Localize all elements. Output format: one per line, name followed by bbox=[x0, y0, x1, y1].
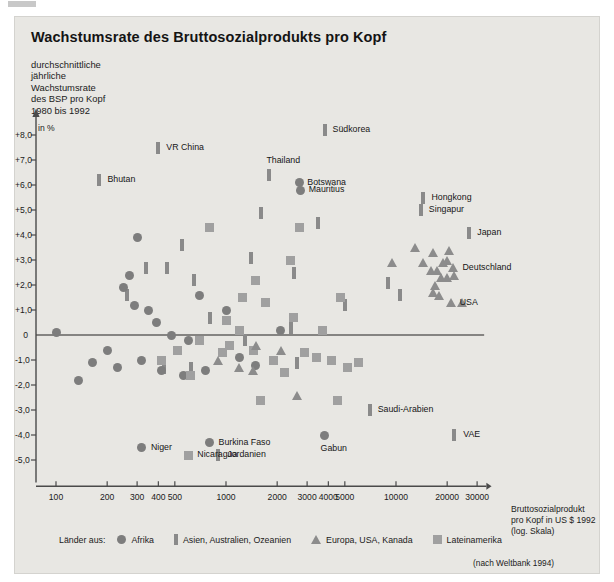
data-point-bar bbox=[267, 169, 271, 181]
point-label: Hongkong bbox=[431, 192, 471, 202]
point-label: Saudi-Arabien bbox=[378, 404, 434, 414]
data-point-triangle bbox=[446, 298, 456, 307]
data-point-circle bbox=[152, 318, 161, 327]
y-tick-label: +8,0 bbox=[15, 130, 28, 140]
legend-item-lateinamerika[interactable]: Lateinamerika bbox=[433, 535, 502, 545]
data-point-triangle bbox=[292, 391, 302, 400]
data-point-triangle bbox=[251, 341, 261, 350]
point-label: Deutschland bbox=[463, 262, 512, 272]
x-tick-label: 500 bbox=[157, 492, 193, 502]
data-point-square bbox=[280, 368, 289, 377]
point-label: Burkina Faso bbox=[219, 437, 271, 447]
y-tick-label: +4,0 bbox=[15, 230, 28, 240]
data-point-circle bbox=[130, 301, 139, 310]
point-label: Thailand bbox=[266, 155, 300, 165]
data-point-bar bbox=[259, 207, 263, 219]
x-tick-label: 10000 bbox=[378, 492, 414, 502]
x-tick-label: 5000 bbox=[327, 492, 363, 502]
data-point-bar bbox=[289, 322, 293, 334]
data-point-circle bbox=[125, 271, 134, 280]
data-point-circle bbox=[157, 366, 166, 375]
data-point-bar bbox=[386, 277, 390, 289]
data-point-circle bbox=[167, 331, 176, 340]
data-point-bar bbox=[97, 174, 101, 186]
data-point-circle bbox=[205, 438, 214, 447]
legend-label: Europa, USA, Kanada bbox=[326, 535, 413, 545]
data-point-square bbox=[343, 363, 352, 372]
data-point-circle bbox=[137, 443, 146, 452]
chart-panel: Wachstumsrate des Bruttosozialprodukts p… bbox=[14, 16, 600, 574]
data-point-bar bbox=[243, 334, 247, 346]
data-point-square bbox=[286, 256, 295, 265]
legend-swatch-triangle-icon bbox=[311, 535, 321, 544]
data-point-bar bbox=[165, 262, 169, 274]
page-top-strip bbox=[0, 0, 614, 16]
data-point-square bbox=[354, 358, 363, 367]
data-point-square bbox=[184, 451, 193, 460]
data-point-square bbox=[333, 396, 342, 405]
data-point-bar bbox=[323, 124, 327, 136]
data-point-square bbox=[261, 298, 270, 307]
data-point-triangle bbox=[276, 346, 286, 355]
data-point-circle bbox=[133, 233, 142, 242]
y-tick-label: -4,0 bbox=[15, 430, 28, 440]
legend-label: Asien, Australien, Ozeanien bbox=[183, 535, 291, 545]
y-tick-label: -1,0 bbox=[15, 355, 28, 365]
data-point-square bbox=[300, 348, 309, 357]
data-point-square bbox=[318, 326, 327, 335]
data-point-square bbox=[312, 353, 321, 362]
data-point-bar bbox=[368, 404, 372, 416]
chart-subtitle: durchschnittliche jährliche Wachstumsrat… bbox=[31, 59, 105, 116]
data-point-bar bbox=[249, 252, 253, 264]
page-corner-mark bbox=[8, 1, 36, 7]
data-point-bar bbox=[180, 239, 184, 251]
legend-swatch-square-icon bbox=[433, 535, 442, 544]
data-point-bar bbox=[398, 289, 402, 301]
data-point-circle bbox=[52, 328, 61, 337]
y-tick-label: +2,0 bbox=[15, 280, 28, 290]
y-tick-label: +6,0 bbox=[15, 180, 28, 190]
data-point-square bbox=[157, 356, 166, 365]
y-tick-label: +1,0 bbox=[15, 305, 28, 315]
point-label: Mauritius bbox=[309, 184, 345, 194]
legend-item-europa[interactable]: Europa, USA, Kanada bbox=[311, 535, 413, 545]
legend-label: Lateinamerika bbox=[447, 535, 502, 545]
legend-swatch-circle-icon bbox=[117, 535, 126, 544]
y-tick-label: -5,0 bbox=[15, 455, 28, 465]
data-point-square bbox=[251, 276, 260, 285]
x-tick-label: 30000 bbox=[459, 492, 495, 502]
data-point-bar bbox=[292, 267, 296, 279]
data-point-triangle bbox=[387, 258, 397, 267]
data-point-bar bbox=[156, 142, 160, 154]
data-point-circle bbox=[74, 376, 83, 385]
data-point-square bbox=[336, 293, 345, 302]
data-point-circle bbox=[137, 356, 146, 365]
legend-item-afrika[interactable]: Afrika bbox=[117, 535, 154, 545]
data-point-triangle bbox=[248, 366, 258, 375]
data-point-square bbox=[195, 336, 204, 345]
data-point-bar bbox=[467, 227, 471, 239]
point-label: Singapur bbox=[429, 204, 464, 214]
legend-item-asien[interactable]: Asien, Australien, Ozeanien bbox=[174, 534, 291, 545]
y-tick-label: -2,0 bbox=[15, 380, 28, 390]
data-point-circle bbox=[201, 366, 210, 375]
data-point-circle bbox=[184, 336, 193, 345]
point-label: VR China bbox=[166, 142, 204, 152]
data-point-circle bbox=[296, 186, 305, 195]
data-point-bar bbox=[421, 192, 425, 204]
data-point-circle bbox=[88, 358, 97, 367]
data-point-square bbox=[295, 223, 304, 232]
point-label: Niger bbox=[151, 442, 172, 452]
chart-legend: Länder aus: AfrikaAsien, Australien, Oze… bbox=[59, 534, 516, 545]
data-point-square bbox=[235, 326, 244, 335]
y-axis-unit-label: in % bbox=[38, 123, 55, 133]
data-point-bar bbox=[192, 274, 196, 286]
data-point-bar bbox=[452, 429, 456, 441]
y-tick-label: 0 bbox=[15, 330, 28, 340]
x-axis-caption: Bruttosozialprodukt pro Kopf in US $ 199… bbox=[511, 504, 596, 537]
data-point-triangle bbox=[410, 243, 420, 252]
data-point-circle bbox=[195, 291, 204, 300]
data-point-square bbox=[238, 293, 247, 302]
data-point-bar bbox=[208, 312, 212, 324]
page-title: Wachstumsrate des Bruttosozialprodukts p… bbox=[31, 29, 386, 45]
